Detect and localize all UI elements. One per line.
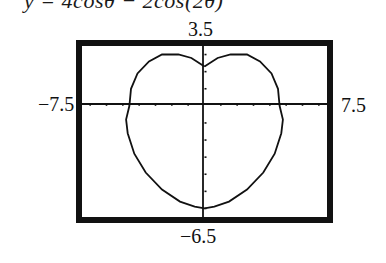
polar-curve bbox=[126, 55, 283, 209]
axis-ticks bbox=[90, 55, 319, 209]
graph-screen bbox=[0, 0, 386, 263]
screen-frame bbox=[79, 43, 330, 220]
